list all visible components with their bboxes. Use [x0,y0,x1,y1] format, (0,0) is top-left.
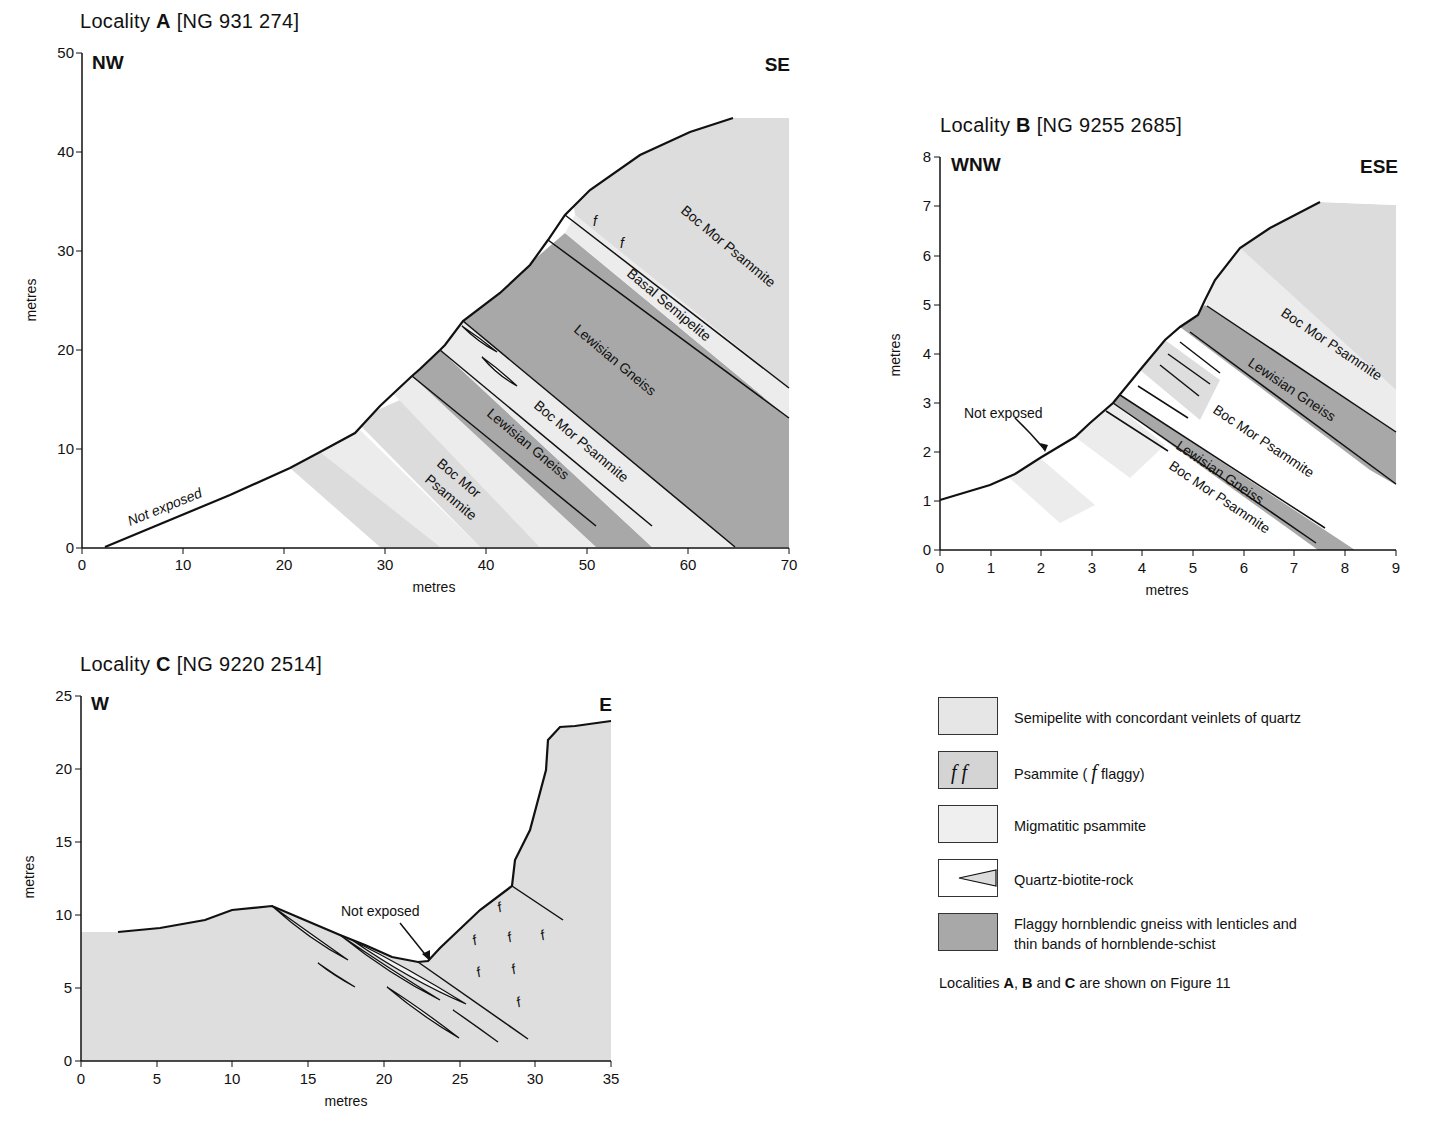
x-tick: 20 [276,556,293,573]
lenticle-icon [939,860,997,896]
y-tick: 5 [923,296,931,313]
x-tick: 15 [300,1070,317,1087]
legend-label: Flaggy hornblendic gneiss with lenticles… [1014,914,1297,954]
legend-label: Psammite ( f flaggy) [1014,762,1144,784]
y-tick: 8 [923,148,931,165]
x-tick: 30 [527,1070,544,1087]
x-tick: 10 [224,1070,241,1087]
footnote-text: , [1014,975,1022,991]
not-exposed-label: Not exposed [341,903,420,919]
legend-item-quartz-biotite: Quartz-biotite-rock [938,859,1378,899]
x-tick: 70 [781,556,798,573]
x-tick: 3 [1088,559,1096,576]
y-tick: 10 [55,906,72,923]
legend: Semipelite with concordant veinlets of q… [938,697,1378,967]
not-exposed-label: Not exposed [964,405,1043,421]
legend-item-gneiss: Flaggy hornblendic gneiss with lenticles… [938,913,1378,953]
y-axis-label: metres [21,856,37,899]
gneiss-swatch [938,913,998,951]
direction-right: ESE [1360,156,1398,177]
y-tick: 6 [923,247,931,264]
x-tick: 0 [936,559,944,576]
locality-a-y-ticks: 0 10 20 30 40 50 [57,44,82,556]
locality-b-y-ticks: 0 1 2 3 4 5 6 7 8 [923,148,940,558]
y-axis-label: metres [887,334,903,377]
y-tick: 50 [57,44,74,61]
legend-item-psammite: f f Psammite ( f flaggy) [938,751,1378,791]
legend-label-part: Psammite ( [1014,766,1087,782]
y-tick: 2 [923,443,931,460]
x-tick: 4 [1138,559,1146,576]
y-tick: 5 [64,979,72,996]
footnote-text: C [1065,975,1075,991]
direction-left: NW [92,52,124,73]
x-tick: 9 [1392,559,1400,576]
direction-left: WNW [951,154,1001,175]
y-tick: 0 [66,539,74,556]
legend-label: Semipelite with concordant veinlets of q… [1014,708,1301,728]
quartz-biotite-swatch [938,859,998,897]
y-tick: 40 [57,143,74,160]
x-tick: 10 [175,556,192,573]
locality-c-y-ticks: 0 5 10 15 20 25 [55,687,81,1069]
footnote-text: and [1033,975,1065,991]
locality-a-section: f f 0 10 20 30 40 50 0 10 20 30 40 50 6 [23,44,797,595]
footnote-text: are shown on Figure 11 [1075,975,1230,991]
footnote-text: B [1022,975,1032,991]
y-tick: 7 [923,197,931,214]
migmatitic-swatch [938,805,998,843]
y-tick: 15 [55,833,72,850]
x-tick: 6 [1240,559,1248,576]
x-axis-label: metres [325,1093,368,1109]
x-tick: 5 [1189,559,1197,576]
y-tick: 25 [55,687,72,704]
flaggy-symbol: f f [951,761,967,784]
x-tick: 2 [1037,559,1045,576]
locality-b-section: 0 1 2 3 4 5 6 7 8 0 1 2 3 4 5 6 7 8 9 [887,148,1400,598]
direction-left: W [91,693,109,714]
x-tick: 5 [153,1070,161,1087]
x-tick: 35 [603,1070,620,1087]
x-tick: 60 [680,556,697,573]
x-axis-label: metres [413,579,456,595]
x-tick: 0 [78,556,86,573]
psammite-swatch: f f [938,751,998,789]
y-tick: 20 [57,341,74,358]
y-tick: 0 [923,541,931,558]
x-tick: 50 [579,556,596,573]
x-tick: 8 [1341,559,1349,576]
locality-b-x-ticks: 0 1 2 3 4 5 6 7 8 9 [936,550,1400,576]
locality-c-section: f f f f f f f 0 5 10 15 20 25 0 [21,687,619,1109]
y-tick: 1 [923,492,931,509]
legend-item-semipelite: Semipelite with concordant veinlets of q… [938,697,1378,737]
locality-c-x-ticks: 0 5 10 15 20 25 30 35 [77,1061,620,1087]
x-tick: 0 [77,1070,85,1087]
y-tick: 0 [64,1052,72,1069]
direction-right: SE [765,54,790,75]
x-tick: 30 [377,556,394,573]
footnote-text: Localities [939,975,1003,991]
y-tick: 30 [57,242,74,259]
x-tick: 40 [478,556,495,573]
x-tick: 7 [1290,559,1298,576]
footnote: Localities A, B and C are shown on Figur… [939,975,1231,991]
legend-label-line: Flaggy hornblendic gneiss with lenticles… [1014,914,1297,934]
y-tick: 3 [923,394,931,411]
footnote-text: A [1003,975,1013,991]
y-tick: 4 [923,345,931,362]
y-tick: 20 [55,760,72,777]
x-tick: 1 [987,559,995,576]
legend-label: Migmatitic psammite [1014,816,1146,836]
y-tick: 10 [57,440,74,457]
legend-label: Quartz-biotite-rock [1014,870,1133,890]
x-axis-label: metres [1146,582,1189,598]
legend-label-part: flaggy) [1097,766,1145,782]
x-tick: 20 [376,1070,393,1087]
direction-right: E [599,694,612,715]
semipelite-swatch [938,697,998,735]
legend-item-migmatitic: Migmatitic psammite [938,805,1378,845]
locality-a-x-ticks: 0 10 20 30 40 50 60 70 [78,548,798,573]
legend-label-line: thin bands of hornblende-schist [1014,934,1297,954]
x-tick: 25 [452,1070,469,1087]
y-axis-label: metres [23,279,39,322]
